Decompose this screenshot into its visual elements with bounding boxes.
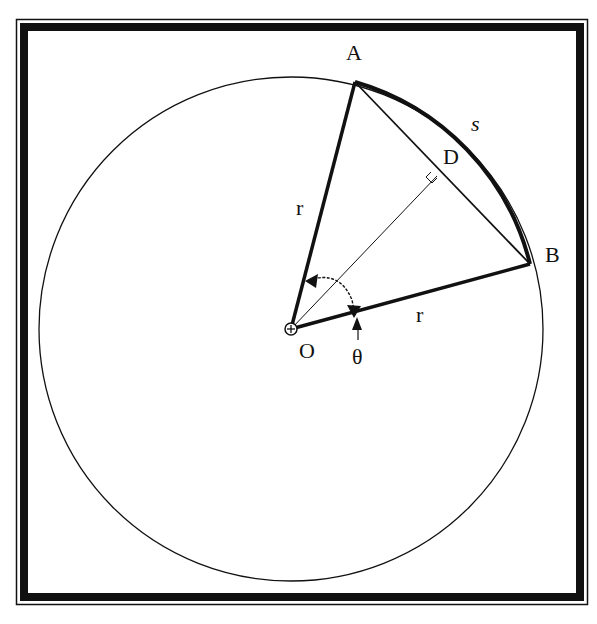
- chord-ab: [355, 82, 530, 264]
- label-b: B: [545, 242, 560, 267]
- label-o: O: [299, 338, 315, 363]
- arrowhead-upper: [305, 274, 318, 288]
- radius-ob: [291, 264, 530, 329]
- label-a: A: [346, 40, 362, 65]
- label-s: s: [471, 111, 480, 136]
- arrowhead-tick: [352, 317, 362, 330]
- label-d: D: [443, 144, 459, 169]
- circle-sector-diagram: A B D O s r r θ: [0, 0, 597, 624]
- center-marker: [285, 323, 297, 335]
- picture-frame: [17, 20, 588, 605]
- label-r-lower: r: [416, 302, 424, 327]
- label-r-upper: r: [296, 195, 304, 220]
- label-theta: θ: [352, 344, 363, 369]
